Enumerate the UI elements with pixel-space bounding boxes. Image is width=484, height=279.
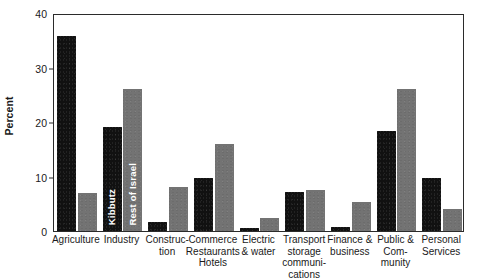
bar-kibbutz <box>57 36 76 231</box>
bar-rest-of-israel <box>443 209 462 231</box>
plot-area: KibbutzRest of Israel <box>53 14 464 232</box>
y-axis-title-text: Percent <box>3 96 15 135</box>
y-tick-label: 20 <box>35 117 47 129</box>
x-axis-label-line: communi- <box>275 257 333 269</box>
bar-rest-of-israel <box>169 187 188 231</box>
bar-chart: Percent 010203040 KibbutzRest of Israel … <box>0 0 484 279</box>
x-axis-label: PersonalServices <box>412 234 470 257</box>
x-axis-label-line: Hotels <box>184 257 242 269</box>
y-tick-label: 10 <box>35 172 47 184</box>
bar-kibbutz <box>377 131 396 231</box>
bar-rest-of-israel: Rest of Israel <box>123 89 142 231</box>
bar-kibbutz <box>331 227 350 231</box>
bars-container: KibbutzRest of Israel <box>54 15 463 231</box>
x-axis-labels: AgricultureIndustryConstruc-tionCommerce… <box>53 234 464 279</box>
bar-rest-of-israel <box>260 218 279 231</box>
x-axis-label-line: Services <box>412 246 470 258</box>
bar-rest-of-israel <box>215 144 234 231</box>
x-axis-label-line: cations <box>275 269 333 279</box>
bar-kibbutz <box>240 228 259 231</box>
bar-rest-of-israel <box>306 190 325 231</box>
bar-kibbutz <box>194 178 213 231</box>
bar-kibbutz <box>422 178 441 231</box>
legend-label-kibbutz: Kibbutz <box>108 189 118 225</box>
y-axis-title: Percent <box>0 0 18 232</box>
legend-label-rest-of-israel: Rest of Israel <box>128 163 138 225</box>
x-axis-label-line: munity <box>367 257 425 269</box>
bar-rest-of-israel <box>78 193 97 231</box>
y-tick-label: 40 <box>35 8 47 20</box>
bar-kibbutz <box>285 192 304 231</box>
bar-kibbutz <box>148 222 167 231</box>
bar-kibbutz: Kibbutz <box>103 127 122 231</box>
bar-rest-of-israel <box>352 202 371 231</box>
bar-rest-of-israel <box>397 89 416 231</box>
y-tick-label: 30 <box>35 63 47 75</box>
x-axis-label-line: Personal <box>412 234 470 246</box>
